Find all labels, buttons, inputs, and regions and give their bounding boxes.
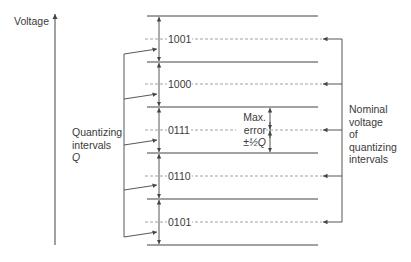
left-bracket (124, 49, 157, 237)
nominal-voltage-label: Nominal voltage of quantizing intervals (349, 103, 397, 166)
right-bracket (323, 39, 342, 222)
label-line: Nominal (349, 103, 397, 116)
label-line: quantizing (349, 141, 397, 154)
level-code: 0101 (167, 216, 192, 228)
level-code: 1000 (167, 78, 192, 90)
level-code: 0110 (167, 170, 192, 182)
label-line: of (349, 128, 397, 141)
quantizing-intervals-label: Quantizing intervals Q (72, 126, 122, 164)
label-line: Max. (236, 111, 266, 124)
label-line: error (236, 124, 266, 137)
max-error-label: Max. error ±½Q (236, 111, 266, 149)
label-line: Quantizing (72, 126, 122, 139)
label-line: intervals (349, 153, 397, 166)
label-line: intervals (72, 139, 122, 152)
label-line: ±½Q (236, 136, 266, 149)
voltage-axis-label: Voltage (14, 15, 49, 28)
label-line: voltage (349, 116, 397, 129)
level-code: 1001 (167, 33, 192, 45)
label-line: Q (72, 151, 122, 164)
level-code: 0111 (167, 124, 191, 136)
